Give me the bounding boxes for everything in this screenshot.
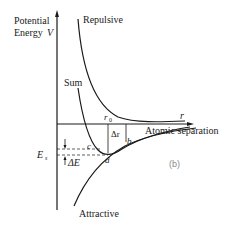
y-axis-label-line2: Energy	[14, 27, 43, 38]
x-axis-label: Atomic separation	[145, 125, 219, 136]
arrow-up-icon	[64, 156, 67, 160]
sum-label: Sum	[64, 77, 83, 88]
point-b-label: b	[127, 136, 132, 146]
x-axis-symbol: r	[180, 110, 184, 121]
y-axis-arrow-icon	[55, 10, 59, 17]
repulsive-label: Repulsive	[83, 14, 124, 25]
r0-subscript: 0	[109, 117, 112, 123]
potential-energy-diagram: Potential Energy V Repulsive Sum Attract…	[0, 0, 236, 227]
delta-e-label: ΔE	[67, 157, 80, 168]
panel-label: (b)	[169, 159, 180, 169]
point-d-label: d	[105, 155, 110, 165]
y-axis-label-line1: Potential	[14, 15, 50, 26]
arrow-down-icon	[64, 145, 67, 149]
energy-level-subscript: s	[45, 155, 48, 161]
delta-r-label: Δr	[111, 129, 120, 139]
energy-level-label: E	[36, 149, 43, 160]
attractive-label: Attractive	[79, 208, 120, 219]
r0-label: r	[104, 112, 108, 122]
repulsive-curve	[78, 19, 185, 122]
y-axis-symbol: V	[47, 27, 55, 38]
point-c-label: c	[87, 141, 91, 151]
